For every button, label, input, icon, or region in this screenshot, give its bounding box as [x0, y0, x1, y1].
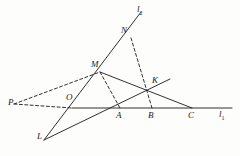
point-label-L: L: [37, 132, 42, 141]
solid-lines-group: [44, 12, 232, 140]
dashed-P-to-M: [14, 72, 100, 104]
point-label-A: A: [116, 111, 122, 120]
dashed-P-to-O: [14, 104, 72, 108]
geometry-figure: P O L M N K A B C l1 l2: [0, 0, 240, 156]
line-label-l2-subscript: 2: [140, 10, 143, 16]
point-label-P: P: [8, 98, 14, 107]
point-label-N: N: [121, 26, 127, 35]
point-label-C: C: [188, 111, 194, 120]
point-label-B: B: [148, 111, 154, 120]
point-label-K: K: [152, 76, 158, 85]
point-label-M: M: [91, 60, 99, 69]
line-label-l1: l1: [219, 110, 225, 121]
line-label-l2: l2: [137, 5, 143, 16]
segment-M-to-C: [100, 72, 192, 108]
dashed-N-to-B: [131, 38, 152, 108]
line-label-l1-subscript: 1: [222, 115, 225, 121]
geometry-canvas: [0, 0, 240, 156]
dashed-M-to-A: [100, 72, 120, 108]
point-label-O: O: [66, 93, 73, 102]
